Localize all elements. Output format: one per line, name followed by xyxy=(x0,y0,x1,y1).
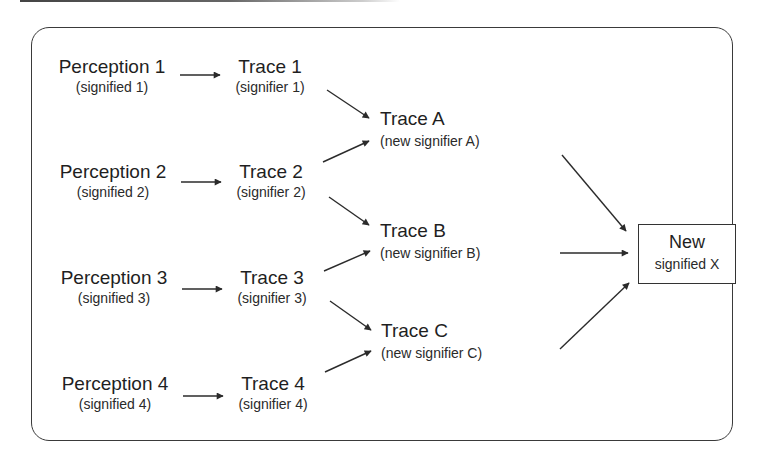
node-trace-3: Trace 3 (signifier 3) xyxy=(217,267,327,307)
node-title: Trace C xyxy=(381,320,482,342)
node-title: Perception 4 xyxy=(40,373,190,395)
arrow-c-new xyxy=(560,283,629,349)
node-perception-2: Perception 2 (signified 2) xyxy=(38,161,188,201)
node-title: Trace B xyxy=(380,220,480,242)
node-trace-2: Trace 2 (signifier 2) xyxy=(216,161,326,201)
node-new-signified-x: New signified X xyxy=(638,224,736,284)
node-title: Perception 2 xyxy=(38,161,188,183)
node-trace-4: Trace 4 (signifier 4) xyxy=(218,373,328,413)
arrow-t4-c xyxy=(325,351,371,372)
arrow-t2-a xyxy=(323,141,369,162)
node-subtitle: (signified 2) xyxy=(38,183,188,201)
node-title: Perception 1 xyxy=(37,56,187,78)
arrow-t3-c xyxy=(330,301,371,330)
node-title: Trace 2 xyxy=(216,161,326,183)
node-trace-c: Trace C (new signifier C) xyxy=(381,320,482,362)
node-subtitle: (signifier 1) xyxy=(215,78,325,96)
arrow-t1-a xyxy=(327,90,369,118)
node-subtitle: (new signifier A) xyxy=(380,132,480,150)
node-perception-1: Perception 1 (signified 1) xyxy=(37,56,187,96)
node-subtitle: signified X xyxy=(639,255,735,273)
arrow-t2-b xyxy=(329,197,369,225)
node-subtitle: (signifier 2) xyxy=(216,183,326,201)
node-title: Trace 4 xyxy=(218,373,328,395)
node-subtitle: (signified 3) xyxy=(39,289,189,307)
node-title: Trace A xyxy=(380,108,480,130)
node-trace-1: Trace 1 (signifier 1) xyxy=(215,56,325,96)
node-trace-a: Trace A (new signifier A) xyxy=(380,108,480,150)
node-subtitle: (signified 4) xyxy=(40,395,190,413)
node-title: New xyxy=(639,232,735,252)
node-trace-b: Trace B (new signifier B) xyxy=(380,220,480,262)
node-perception-3: Perception 3 (signified 3) xyxy=(39,267,189,307)
node-title: Perception 3 xyxy=(39,267,189,289)
node-subtitle: (new signifier C) xyxy=(381,344,482,362)
node-title: Trace 3 xyxy=(217,267,327,289)
node-subtitle: (signified 1) xyxy=(37,78,187,96)
arrow-a-new xyxy=(562,155,626,231)
node-subtitle: (signifier 4) xyxy=(218,395,328,413)
node-subtitle: (signifier 3) xyxy=(217,289,327,307)
node-title: Trace 1 xyxy=(215,56,325,78)
node-perception-4: Perception 4 (signified 4) xyxy=(40,373,190,413)
arrow-t3-b xyxy=(324,251,370,271)
node-subtitle: (new signifier B) xyxy=(380,244,480,262)
